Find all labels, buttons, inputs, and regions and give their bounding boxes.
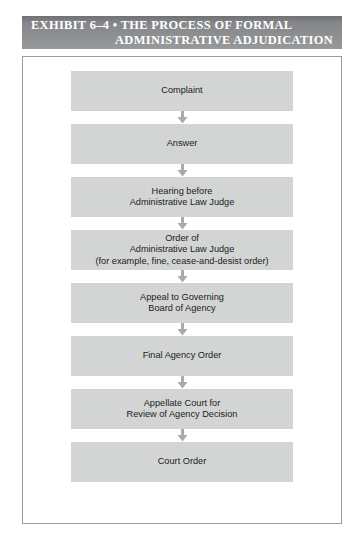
flow-step-label: (for example, fine, cease-and-desist ord…: [95, 256, 268, 267]
flow-step-box: Appellate Court forReview of Agency Deci…: [71, 389, 293, 429]
flow-step-box: Hearing beforeAdministrative Law Judge: [71, 177, 293, 217]
flow-step-label: Answer: [167, 138, 198, 149]
exhibit-frame: ComplaintAnswerHearing beforeAdministrat…: [22, 56, 342, 524]
exhibit-title-line-2: ADMINISTRATIVE ADJUDICATION: [31, 33, 333, 48]
down-arrow-icon: [71, 217, 293, 230]
flow-step-label: Review of Agency Decision: [127, 409, 238, 420]
flow-step-box: Appeal to GoverningBoard of Agency: [71, 283, 293, 323]
flow-step-box: Complaint: [71, 71, 293, 111]
exhibit-title-line-1: EXHIBIT 6–4 • THE PROCESS OF FORMAL: [31, 18, 333, 33]
down-arrow-icon: [71, 429, 293, 442]
down-arrow-icon: [71, 270, 293, 283]
flowchart: ComplaintAnswerHearing beforeAdministrat…: [71, 71, 293, 482]
flow-step-label: Board of Agency: [148, 303, 215, 314]
down-arrow-icon: [71, 376, 293, 389]
flow-step-label: Administrative Law Judge: [130, 244, 235, 255]
flow-step-label: Order of: [165, 233, 199, 244]
flow-step-label: Complaint: [161, 85, 202, 96]
exhibit-header-banner: EXHIBIT 6–4 • THE PROCESS OF FORMAL ADMI…: [22, 16, 342, 49]
flow-step-label: Administrative Law Judge: [130, 197, 235, 208]
flow-step-label: Court Order: [158, 456, 207, 467]
flow-step-label: Appeal to Governing: [140, 292, 224, 303]
down-arrow-icon: [71, 111, 293, 124]
flow-step-label: Appellate Court for: [144, 398, 221, 409]
flow-step-box: Court Order: [71, 442, 293, 482]
flow-step-label: Final Agency Order: [143, 350, 222, 361]
flow-step-box: Order ofAdministrative Law Judge(for exa…: [71, 230, 293, 270]
flow-step-box: Answer: [71, 124, 293, 164]
flow-step-box: Final Agency Order: [71, 336, 293, 376]
down-arrow-icon: [71, 164, 293, 177]
down-arrow-icon: [71, 323, 293, 336]
exhibit-page: EXHIBIT 6–4 • THE PROCESS OF FORMAL ADMI…: [0, 0, 363, 551]
flow-step-label: Hearing before: [152, 186, 213, 197]
